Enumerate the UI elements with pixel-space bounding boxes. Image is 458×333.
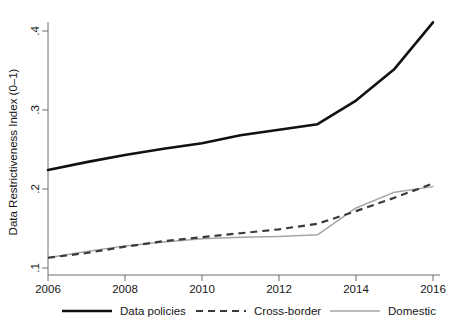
series-line-domestic (48, 187, 433, 258)
y-tick-label-0.1: .1 (29, 263, 41, 273)
x-tick-label-2012: 2012 (266, 283, 292, 295)
x-tick-label-2014: 2014 (343, 283, 369, 295)
legend-label-data-policies: Data policies (120, 305, 186, 317)
caption-sliver (58, 324, 388, 333)
legend-label-cross-border: Cross-border (254, 305, 321, 317)
series-line-cross-border (48, 183, 433, 257)
x-tick-label-2006: 2006 (35, 283, 61, 295)
x-tick-label-2016: 2016 (420, 283, 446, 295)
y-tick-label-0.2: .2 (29, 184, 41, 194)
x-tick-label-2008: 2008 (112, 283, 138, 295)
y-tick-label-0.3: .3 (29, 105, 41, 115)
series-line-data-policies (48, 22, 433, 170)
legend-label-domestic: Domestic (388, 305, 436, 317)
chart-figure: Data Restrictiveness Index (0–1) .4 .3 .… (0, 0, 458, 333)
line-chart: Data Restrictiveness Index (0–1) .4 .3 .… (0, 0, 458, 333)
x-tick-label-2010: 2010 (189, 283, 215, 295)
y-tick-label-0.4: .4 (29, 26, 41, 36)
chart-legend: Data policies Cross-border Domestic (62, 305, 436, 317)
y-axis-title: Data Restrictiveness Index (0–1) (7, 68, 19, 235)
